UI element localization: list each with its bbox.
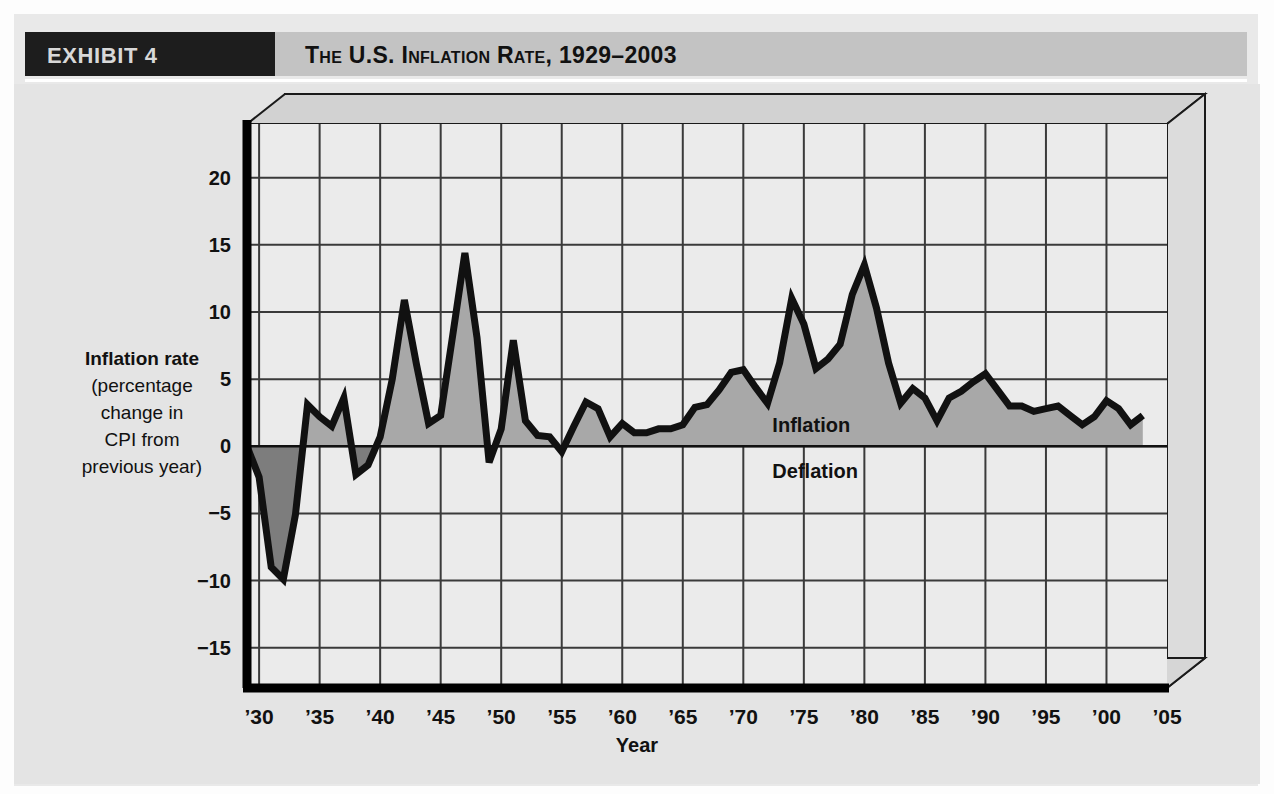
x-axis-tick-label: ’00	[1092, 705, 1121, 728]
chart-top-bevel	[247, 94, 1205, 124]
y-axis-title-line-2: (percentage	[91, 375, 192, 396]
y-axis-title-line-1: Inflation rate	[85, 348, 199, 369]
y-axis-tick-label: 5	[220, 368, 231, 390]
x-axis-tick-label: ’70	[729, 705, 758, 728]
y-axis-tick-label: 20	[209, 167, 231, 189]
x-axis-tick-label: ’55	[547, 705, 577, 728]
x-axis-tick-label: ’50	[487, 705, 516, 728]
x-axis-tick-label: ’40	[366, 705, 395, 728]
y-axis-title-line-5: previous year)	[82, 456, 202, 477]
y-axis-tick-label: 10	[209, 301, 231, 323]
x-axis-tick-label: ’45	[426, 705, 456, 728]
y-axis-tick-label: −15	[197, 637, 231, 659]
x-axis-tick-label: ’90	[971, 705, 1000, 728]
y-axis-tick-label: 0	[220, 435, 231, 457]
x-axis-tick-label: ’60	[608, 705, 637, 728]
x-axis-title: Year	[616, 734, 658, 756]
exhibit-title: The U.S. Inflation Rate, 1929–2003	[305, 42, 677, 69]
chart-figure: 20151050−5−10−15 ’30’35’40’45’50’55’60’6…	[14, 84, 1260, 784]
x-axis-tick-label: ’65	[668, 705, 698, 728]
x-axis-tick-label: ’80	[850, 705, 879, 728]
deflation-annotation: Deflation	[772, 460, 858, 482]
page-margin-right	[1258, 0, 1274, 794]
x-axis-tick-label: ’30	[245, 705, 274, 728]
page-margin-left	[0, 0, 14, 794]
x-axis-tick-label: ’05	[1152, 705, 1182, 728]
header-underline	[25, 79, 1247, 82]
inflation-area-chart: 20151050−5−10−15 ’30’35’40’45’50’55’60’6…	[14, 84, 1260, 784]
page-margin-bottom	[0, 786, 1274, 794]
exhibit-number-label: EXHIBIT 4	[47, 43, 158, 69]
y-axis-tick-label: −5	[208, 502, 231, 524]
x-axis-tick-label: ’85	[910, 705, 940, 728]
figure-page: EXHIBIT 4 The U.S. Inflation Rate, 1929–…	[0, 0, 1274, 794]
x-axis-tick-label: ’75	[789, 705, 819, 728]
y-axis-title-line-3: change in	[101, 402, 183, 423]
y-axis-tick-label: 15	[209, 234, 231, 256]
y-axis-title-line-4: CPI from	[105, 429, 180, 450]
x-axis-tick-label: ’35	[305, 705, 335, 728]
page-margin-top	[0, 0, 1274, 14]
x-axis-tick-label: ’95	[1031, 705, 1061, 728]
chart-right-bevel	[1167, 94, 1205, 688]
inflation-annotation: Inflation	[772, 414, 850, 436]
y-axis-tick-label: −10	[197, 570, 231, 592]
